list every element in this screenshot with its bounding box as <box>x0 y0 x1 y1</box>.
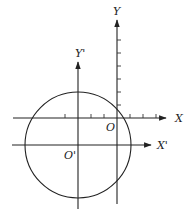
y-axis-label: Y <box>113 5 122 18</box>
y-axis-ticks <box>117 40 121 105</box>
origin-label: O <box>106 121 115 134</box>
translated-origin-label: O' <box>64 149 76 162</box>
x-axis-ticks <box>65 114 156 118</box>
x-prime-axis-label: X' <box>156 139 168 152</box>
y-prime-axis-label: Y' <box>75 47 85 60</box>
coordinate-diagram: Y X O Y' X' O' <box>0 0 189 215</box>
x-axis-label: X <box>174 112 184 125</box>
